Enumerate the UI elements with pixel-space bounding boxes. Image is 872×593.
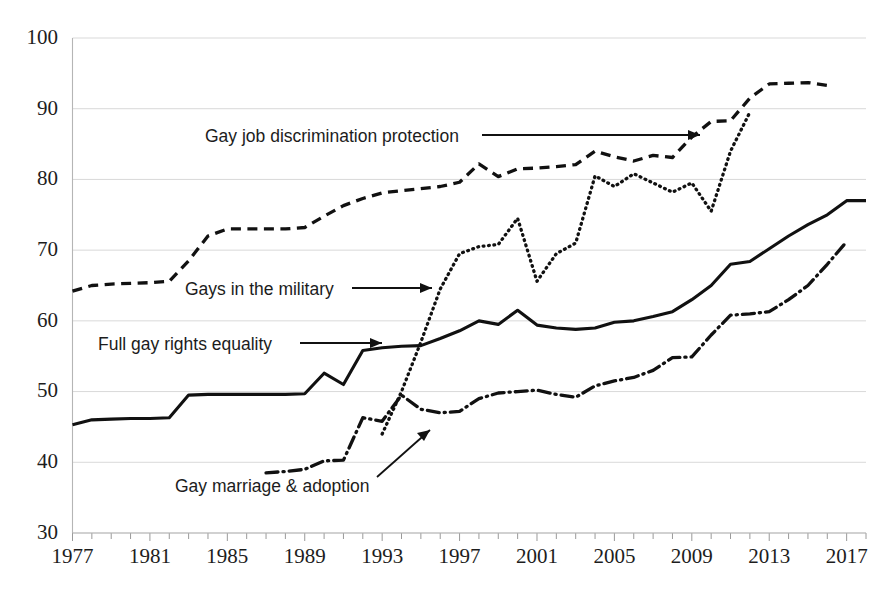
series-line-gay-marriage-adoption <box>266 242 847 473</box>
annotation-label-full-gay-rights-equality: Full gay rights equality <box>98 334 272 354</box>
x-tick-label-2013: 2013 <box>748 544 790 568</box>
x-tick-label-1993: 1993 <box>361 544 403 568</box>
x-tick-label-1985: 1985 <box>206 544 248 568</box>
y-tick-label-100: 100 <box>27 25 59 49</box>
annotation-label-gay-marriage-and-adoption: Gay marriage & adoption <box>175 476 370 496</box>
annotation-gay-job-discrimination-protection: Gay job discrimination protection <box>205 126 700 146</box>
y-tick-label-30: 30 <box>37 520 58 544</box>
arrow-head-icon <box>688 130 700 140</box>
annotation-gays-in-the-military: Gays in the military <box>185 279 432 299</box>
x-tick-label-2017: 2017 <box>826 544 868 568</box>
annotation-gay-marriage-and-adoption: Gay marriage & adoption <box>175 430 430 496</box>
x-tick-label-2001: 2001 <box>516 544 558 568</box>
series-line-gay-job-discrimination-protection <box>73 83 828 292</box>
line-chart-canvas: 30405060708090100 1977198119851989199319… <box>0 0 872 593</box>
x-tick-label-2009: 2009 <box>671 544 713 568</box>
arrow-head-icon <box>420 283 432 293</box>
y-tick-label-70: 70 <box>37 237 58 261</box>
y-tick-label-50: 50 <box>37 378 58 402</box>
chart-figure: 30405060708090100 1977198119851989199319… <box>0 0 872 593</box>
annotation-label-gay-job-discrimination-protection: Gay job discrimination protection <box>205 126 459 146</box>
series-line-gays-in-the-military <box>382 112 750 434</box>
annotation-layer: Gay job discrimination protectionGays in… <box>98 126 700 496</box>
y-tick-label-60: 60 <box>37 308 58 332</box>
x-tick-label-1981: 1981 <box>129 544 171 568</box>
x-tick-label-2005: 2005 <box>593 544 635 568</box>
x-tick-label-1989: 1989 <box>284 544 326 568</box>
x-tick-label-1977: 1977 <box>52 544 94 568</box>
y-tick-label-80: 80 <box>37 166 58 190</box>
y-axis-tick-labels: 30405060708090100 <box>27 25 59 544</box>
y-tick-label-40: 40 <box>37 449 58 473</box>
x-axis-tick-labels: 1977198119851989199319972001200520092013… <box>52 544 868 568</box>
annotation-label-gays-in-the-military: Gays in the military <box>185 279 334 299</box>
x-axis-tick-marks <box>73 533 867 541</box>
x-tick-label-1997: 1997 <box>439 544 481 568</box>
y-tick-label-90: 90 <box>37 96 58 120</box>
annotation-full-gay-rights-equality: Full gay rights equality <box>98 334 382 354</box>
data-series-layer <box>73 83 867 473</box>
